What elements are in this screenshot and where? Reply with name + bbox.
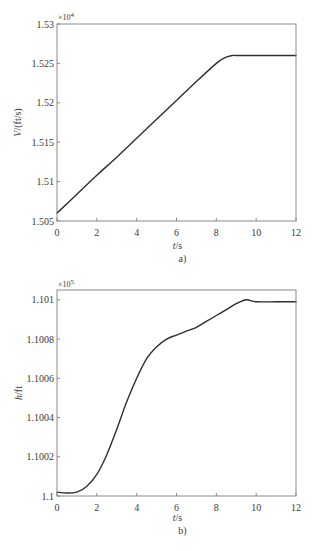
y-tick-label: 1.1004 <box>27 412 55 423</box>
y-axis-label: h/ft <box>13 386 24 400</box>
y-tick-label: 1.1006 <box>27 373 55 384</box>
x-tick-label: 12 <box>291 227 301 238</box>
y-tick-label: 1.505 <box>32 216 55 227</box>
panel-label: a) <box>179 253 187 265</box>
y-axis-unit: /ft <box>13 386 24 395</box>
x-tick-label: 0 <box>55 227 60 238</box>
x-axis-label: t/s <box>173 512 183 523</box>
y-tick-label: 1.51 <box>37 176 55 187</box>
y-tick-label: 1.52 <box>37 97 55 108</box>
y-tick-label: 1.1008 <box>27 334 55 345</box>
x-axis-unit: /s <box>176 240 183 251</box>
x-tick-label: 12 <box>291 502 301 513</box>
x-axis-unit: /s <box>176 512 183 523</box>
y-axis-unit: /(ft/s) <box>12 108 24 130</box>
y-tick-label: 1.1002 <box>27 451 55 462</box>
x-tick-label: 6 <box>174 227 179 238</box>
y-axis-label: V/(ft/s) <box>12 108 24 136</box>
y-tick-label: 1.53 <box>37 19 55 30</box>
x-tick-label: 0 <box>55 502 60 513</box>
x-tick-label: 4 <box>134 502 139 513</box>
x-tick-label: 2 <box>94 502 99 513</box>
data-line-V <box>57 55 296 213</box>
data-line-h <box>57 300 296 493</box>
y-tick-label: 1.525 <box>32 58 55 69</box>
figure: 1.5051.511.5151.521.5251.53024681012×104… <box>0 0 316 551</box>
x-tick-label: 10 <box>251 502 261 513</box>
y-axis-multiplier: ×104 <box>58 11 75 22</box>
y-tick-label: 1.101 <box>32 294 55 305</box>
x-tick-label: 8 <box>214 502 219 513</box>
plot-frame <box>57 24 296 221</box>
chart-a-velocity: 1.5051.511.5151.521.5251.53024681012×104… <box>12 11 301 265</box>
x-tick-label: 2 <box>94 227 99 238</box>
multiplier-base: ×10 <box>58 13 71 22</box>
multiplier-exponent: 5 <box>71 278 75 286</box>
multiplier-base: ×10 <box>58 280 71 289</box>
x-tick-label: 10 <box>251 227 261 238</box>
multiplier-exponent: 4 <box>71 11 75 19</box>
chart-b-altitude: 1.11.10021.10041.10061.10081.10102468101… <box>13 278 301 537</box>
x-axis-label: t/s <box>173 240 183 251</box>
x-tick-label: 8 <box>214 227 219 238</box>
y-tick-label: 1.515 <box>32 137 55 148</box>
x-tick-label: 4 <box>134 227 139 238</box>
plot-frame <box>57 290 296 496</box>
y-axis-multiplier: ×105 <box>58 278 75 289</box>
panel-label: b) <box>178 525 186 537</box>
y-tick-label: 1.1 <box>42 491 55 502</box>
